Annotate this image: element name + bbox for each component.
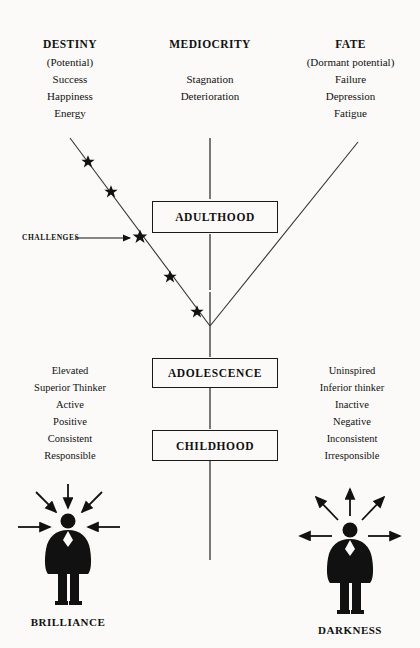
- trait-right-5: Inconsistent: [290, 430, 414, 447]
- figure-foot-right: [351, 610, 364, 614]
- column-fate-item-3: Fatigue: [288, 105, 413, 122]
- column-fate-heading: FATE: [288, 36, 413, 54]
- column-mediocrity: MEDIOCRITY Stagnation Deterioration: [150, 36, 270, 105]
- brilliance-figure: [45, 514, 91, 606]
- outcome-label-darkness: DARKNESS: [290, 624, 410, 636]
- column-fate-item-2: Depression: [288, 88, 413, 105]
- trait-right-2: Inferior thinker: [290, 379, 414, 396]
- challenge-star: [133, 230, 148, 244]
- trait-right-1: Uninspired: [290, 362, 414, 379]
- figure-foot-right: [69, 601, 82, 605]
- challenge-star: [163, 270, 176, 282]
- stage-box-adolescence[interactable]: ADOLESCENCE: [152, 358, 278, 388]
- trait-right-3: Inactive: [290, 396, 414, 413]
- traits-left-column: Elevated Superior Thinker Active Positiv…: [8, 362, 132, 464]
- column-destiny: DESTINY (Potential) Success Happiness En…: [10, 36, 130, 122]
- column-fate-item-1: Failure: [288, 71, 413, 88]
- column-fate-subtitle: (Dormant potential): [288, 54, 413, 71]
- trait-left-4: Positive: [8, 413, 132, 430]
- column-mediocrity-item-1: Stagnation: [150, 71, 270, 88]
- figure-leg-right: [352, 581, 361, 613]
- traits-right-column: Uninspired Inferior thinker Inactive Neg…: [290, 362, 414, 464]
- challenges-label: CHALLENGES: [22, 233, 79, 242]
- column-destiny-item-2: Happiness: [10, 88, 130, 105]
- trait-right-4: Negative: [290, 413, 414, 430]
- diagram-canvas: DESTINY (Potential) Success Happiness En…: [0, 0, 420, 648]
- trait-right-6: Irresponsible: [290, 447, 414, 464]
- column-destiny-item-1: Success: [10, 71, 130, 88]
- figure-foot-left: [55, 601, 68, 605]
- stage-box-childhood[interactable]: CHILDHOOD: [152, 430, 278, 461]
- outcome-label-brilliance: BRILLIANCE: [8, 616, 128, 628]
- column-mediocrity-item-2: Deterioration: [150, 88, 270, 105]
- figure-leg-left: [340, 581, 349, 613]
- inward-arrow-upper-left: [36, 492, 56, 512]
- inward-arrow-upper-right: [82, 492, 102, 512]
- column-destiny-heading: DESTINY: [10, 36, 130, 54]
- trait-left-6: Responsible: [8, 447, 132, 464]
- trait-left-3: Active: [8, 396, 132, 413]
- trait-left-5: Consistent: [8, 430, 132, 447]
- outward-arrow-upper-right: [362, 497, 384, 520]
- column-mediocrity-heading: MEDIOCRITY: [150, 36, 270, 54]
- figure-head: [61, 514, 76, 529]
- trait-left-1: Elevated: [8, 362, 132, 379]
- column-fate: FATE (Dormant potential) Failure Depress…: [288, 36, 413, 122]
- trait-left-2: Superior Thinker: [8, 379, 132, 396]
- column-destiny-item-3: Energy: [10, 105, 130, 122]
- figure-head: [343, 523, 358, 538]
- stage-box-adulthood[interactable]: ADULTHOOD: [152, 201, 278, 233]
- darkness-figure: [327, 523, 373, 615]
- column-destiny-subtitle: (Potential): [10, 54, 130, 71]
- figure-leg-left: [58, 572, 67, 604]
- outward-arrow-upper-left: [316, 497, 338, 520]
- challenge-star: [81, 155, 94, 167]
- figure-leg-right: [70, 572, 79, 604]
- column-mediocrity-spacer: [150, 54, 270, 71]
- figure-foot-left: [337, 610, 350, 614]
- fate-path-line: [210, 142, 358, 326]
